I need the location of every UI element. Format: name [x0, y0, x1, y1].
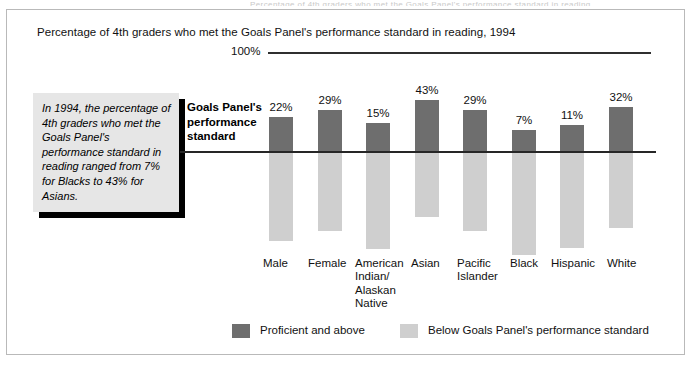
bar-below-standard: [269, 151, 293, 241]
category-label: Asian: [411, 257, 453, 270]
category-label: Hispanic: [551, 257, 607, 270]
bar-below-standard: [318, 151, 342, 231]
bar-value-label: 29%: [445, 94, 505, 106]
bar-proficient: [415, 100, 439, 153]
legend-swatch: [400, 324, 418, 338]
category-label: White: [607, 257, 651, 270]
goals-panel-standard-line: [180, 151, 656, 153]
category-label: AmericanIndian/AlaskanNative: [355, 257, 409, 311]
bar-below-standard: [560, 151, 584, 248]
plot-area: 22%29%15%43%29%7%11%32% MaleFemaleAmeric…: [0, 0, 693, 365]
bar-below-standard: [366, 151, 390, 249]
category-label: PacificIslander: [457, 257, 505, 284]
bar-proficient: [269, 117, 293, 153]
bar-proficient: [560, 125, 584, 153]
bar-value-label: 15%: [348, 107, 408, 119]
bar-below-standard: [463, 151, 487, 231]
bar-proficient: [512, 130, 536, 153]
category-label: Male: [263, 257, 307, 270]
bar-proficient: [318, 110, 342, 153]
bar-value-label: 11%: [542, 109, 602, 121]
category-label: Black: [510, 257, 554, 270]
bar-proficient: [463, 110, 487, 153]
bar-below-standard: [609, 151, 633, 228]
bar-value-label: 32%: [591, 91, 651, 103]
legend-swatch: [232, 324, 250, 338]
bar-proficient: [366, 123, 390, 153]
bar-value-label: 29%: [300, 94, 360, 106]
legend-label: Proficient and above: [260, 324, 365, 336]
category-label: Female: [308, 257, 360, 270]
bar-proficient: [609, 107, 633, 153]
bar-below-standard: [512, 151, 536, 255]
legend-label: Below Goals Panel's performance standard: [428, 324, 649, 336]
bar-below-standard: [415, 151, 439, 217]
chart-figure: Percentage of 4th graders who met the Go…: [0, 0, 693, 365]
